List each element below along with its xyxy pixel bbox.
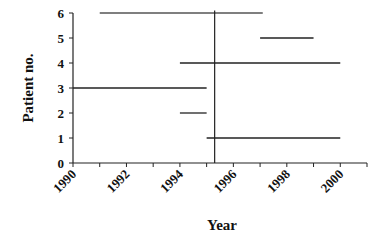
- x-tick-label: 1996: [210, 166, 239, 195]
- y-tick-label: 3: [58, 81, 65, 96]
- y-tick-label: 6: [58, 6, 65, 21]
- x-tick-label: 1990: [50, 167, 79, 196]
- y-tick-label: 1: [58, 131, 65, 146]
- x-tick-label: 2000: [317, 167, 346, 196]
- y-axis-title: Patient no.: [20, 53, 36, 122]
- y-tick-label: 5: [58, 31, 65, 46]
- x-axis-title: Year: [207, 217, 237, 233]
- x-axis: 199019921994199619982000: [50, 163, 367, 196]
- x-tick-label: 1992: [104, 167, 133, 196]
- x-tick-label: 1994: [157, 166, 186, 195]
- x-tick-label: 1998: [264, 166, 293, 195]
- y-axis: 0123456: [58, 6, 74, 171]
- patient-intervals: [73, 13, 340, 138]
- patient-timeline-chart: 0123456 199019921994199619982000 Year Pa…: [0, 0, 385, 239]
- y-tick-label: 0: [58, 156, 65, 171]
- y-tick-label: 2: [58, 106, 65, 121]
- y-tick-label: 4: [58, 56, 65, 71]
